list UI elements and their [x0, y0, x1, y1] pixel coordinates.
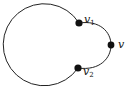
label-v2: v2 [83, 65, 94, 79]
vertex-v1 [75, 19, 82, 26]
large-cycle [3, 4, 79, 86]
ear-path [78, 23, 111, 69]
label-v: v [118, 38, 125, 51]
vertex-v2 [74, 64, 81, 71]
vertex-v [108, 42, 115, 49]
graph-diagram: v1 v2 v [0, 0, 129, 89]
label-v1: v1 [84, 13, 95, 27]
